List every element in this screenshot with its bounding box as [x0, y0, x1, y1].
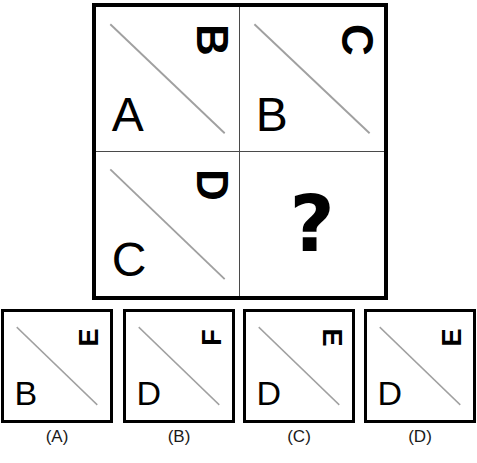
- answer-option-upright-letter: D: [137, 376, 162, 410]
- answer-option-c-box[interactable]: E D: [243, 309, 355, 423]
- answer-option-rotated-letter: F: [199, 329, 226, 346]
- matrix-cell-rotated-letter: D: [190, 169, 234, 201]
- answer-option-label: (B): [123, 427, 235, 447]
- answer-option-upright-letter: B: [15, 376, 38, 410]
- answer-option-d[interactable]: E D (D): [364, 309, 476, 423]
- answer-option-upright-letter: D: [378, 376, 403, 410]
- matrix-cell-upright-letter: A: [112, 91, 144, 139]
- answer-options-row: E B (A) F D (B) E D: [0, 309, 477, 463]
- matrix-cell-top-right: C B: [240, 7, 384, 152]
- answer-option-rotated-letter: E: [318, 328, 345, 346]
- answer-option-a-box[interactable]: E B: [1, 309, 113, 423]
- puzzle-stage: B A C B D C ?: [0, 0, 477, 463]
- matrix-frame: B A C B D C ?: [92, 3, 388, 300]
- answer-option-upright-letter: D: [257, 376, 282, 410]
- matrix-cell-upright-letter: C: [112, 236, 147, 284]
- answer-option-label: (A): [1, 427, 113, 447]
- matrix-cell-top-left: B A: [96, 7, 240, 152]
- matrix-grid: B A C B D C ?: [96, 7, 384, 296]
- matrix-cell-rotated-letter: B: [190, 25, 234, 57]
- question-mark-icon: ?: [240, 152, 384, 297]
- answer-option-label: (D): [364, 427, 476, 447]
- matrix-cell-rotated-letter: C: [335, 25, 379, 57]
- answer-option-a[interactable]: E B (A): [1, 309, 113, 423]
- matrix-cell-upright-letter: B: [256, 91, 288, 139]
- answer-option-b[interactable]: F D (B): [123, 309, 235, 423]
- matrix-cell-bottom-right-question: ?: [240, 152, 384, 297]
- matrix-cell-bottom-left: D C: [96, 152, 240, 297]
- answer-option-c[interactable]: E D (C): [243, 309, 355, 423]
- answer-option-rotated-letter: E: [76, 328, 103, 346]
- answer-option-label: (C): [243, 427, 355, 447]
- answer-option-d-box[interactable]: E D: [364, 309, 476, 423]
- answer-option-b-box[interactable]: F D: [123, 309, 235, 423]
- answer-option-rotated-letter: E: [439, 328, 466, 346]
